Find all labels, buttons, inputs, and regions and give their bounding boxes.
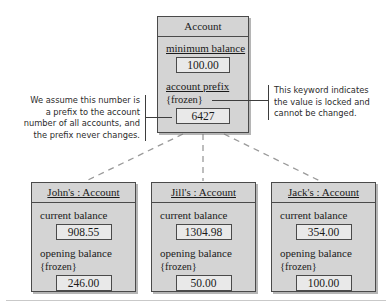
note-left-line-1: We assume this number is (14, 95, 140, 107)
attribute-spacer (166, 73, 240, 80)
object-box-johns-account[interactable]: John's : Account current balance 908.55 … (31, 182, 136, 292)
note-left-line-2: a prefix to the account (14, 107, 140, 119)
attribute-value-opening-balance-john[interactable]: 246.00 (56, 275, 112, 291)
object-box-jacks-account[interactable]: Jack's : Account current balance 354.00 … (271, 182, 376, 292)
attribute-spacer (280, 240, 367, 247)
attribute-name-current-balance-jack: current balance (280, 209, 367, 222)
note-right-line-1: This keyword indicates (274, 85, 388, 97)
object-box-johns-account-body: current balance 908.55 opening balance {… (32, 203, 135, 297)
note-right-line-3: cannot be changed. (274, 108, 388, 120)
attribute-name-minimum-balance: minimum balance (166, 42, 240, 55)
attribute-value-opening-balance-jack[interactable]: 100.00 (296, 275, 352, 291)
attribute-keyword-frozen-opening-balance-jack: {frozen} (280, 260, 367, 273)
object-box-jills-account-body: current balance 1304.98 opening balance … (152, 203, 255, 297)
attribute-name-current-balance-john: current balance (40, 209, 127, 222)
note-left-leader-line (146, 117, 172, 118)
note-left-line-3: number of all accounts, and (14, 118, 140, 130)
diagram-canvas: Account minimum balance 100.00 account p… (0, 0, 392, 306)
link-account-to-jacks (224, 134, 320, 181)
object-box-jills-account-title: Jill's : Account (152, 183, 255, 203)
page-divider-rule (6, 300, 386, 301)
class-box-account-title: Account (158, 17, 248, 37)
attribute-value-minimum-balance[interactable]: 100.00 (176, 57, 230, 73)
attribute-name-opening-balance-jill: opening balance (160, 247, 247, 260)
note-right-leader-line (212, 100, 269, 101)
attribute-value-current-balance-jack[interactable]: 354.00 (296, 224, 352, 240)
attribute-value-current-balance-jill[interactable]: 1304.98 (176, 224, 232, 240)
object-box-jacks-account-title: Jack's : Account (272, 183, 375, 203)
class-box-account[interactable]: Account minimum balance 100.00 account p… (157, 16, 249, 133)
attribute-name-opening-balance-john: opening balance (40, 247, 127, 260)
object-box-jills-account[interactable]: Jill's : Account current balance 1304.98… (151, 182, 256, 292)
attribute-spacer (160, 240, 247, 247)
attribute-spacer (40, 240, 127, 247)
annotation-note-left: We assume this number is a prefix to the… (14, 95, 146, 141)
attribute-name-account-prefix: account prefix (166, 80, 240, 93)
attribute-value-account-prefix[interactable]: 6427 (176, 108, 230, 124)
object-box-johns-account-title: John's : Account (32, 183, 135, 203)
attribute-value-current-balance-john[interactable]: 908.55 (56, 224, 112, 240)
attribute-value-opening-balance-jill[interactable]: 50.00 (176, 275, 232, 291)
note-right-line-2: the value is locked and (274, 97, 388, 109)
attribute-keyword-frozen-opening-balance-john: {frozen} (40, 260, 127, 273)
attribute-keyword-frozen-opening-balance-jill: {frozen} (160, 260, 247, 273)
attribute-name-current-balance-jill: current balance (160, 209, 247, 222)
attribute-name-opening-balance-jack: opening balance (280, 247, 367, 260)
annotation-note-right: This keyword indicates the value is lock… (268, 85, 388, 120)
note-left-line-4: the prefix never changes. (14, 130, 140, 142)
object-box-jacks-account-body: current balance 354.00 opening balance {… (272, 203, 375, 297)
